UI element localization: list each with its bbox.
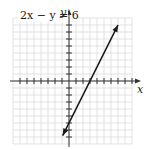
coordinate-plane: 2x − y = 6 y x: [0, 0, 147, 150]
y-axis-label: y: [59, 6, 67, 19]
x-axis-label: x: [137, 83, 144, 96]
equation-label: 2x − y = 6: [20, 9, 79, 22]
